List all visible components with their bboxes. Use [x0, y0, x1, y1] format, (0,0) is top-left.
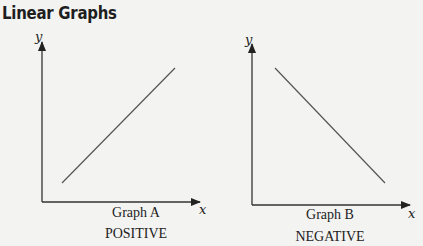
- graph-a-name: Graph A: [76, 205, 196, 221]
- graph-a-positive-line: [62, 68, 175, 183]
- graph-a-x-label: x: [199, 202, 207, 217]
- graph-b-slope-label: NEGATIVE: [270, 229, 390, 245]
- graph-b-x-label: x: [408, 206, 416, 221]
- graph-b: y x: [244, 32, 416, 221]
- graph-a-y-label: y: [34, 29, 43, 44]
- graph-b-name: Graph B: [270, 207, 390, 223]
- graph-a-slope-label: POSITIVE: [76, 226, 196, 242]
- graph-b-y-label: y: [244, 32, 253, 47]
- graph-a: y x: [34, 29, 207, 217]
- graph-b-negative-line: [275, 68, 385, 183]
